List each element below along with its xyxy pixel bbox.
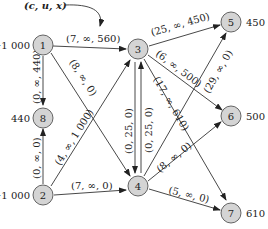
node-1-id: 1: [40, 40, 46, 51]
node-6-supply: 500: [246, 111, 265, 122]
edge-label-1-4: (8, ∞, 0): [67, 57, 99, 98]
edge-label-4-5: (29, ∞, 0): [201, 48, 235, 95]
node-8-supply: 440: [11, 113, 30, 124]
node-7: 7 610: [221, 203, 265, 223]
legend-pointer-arrow: [65, 5, 101, 26]
node-5: 5 450: [221, 12, 265, 32]
edge-label-4-3: (0, 25, 0): [143, 107, 154, 153]
node-5-id: 5: [228, 17, 234, 28]
edge-label-4-7: (5, ∞, 0): [168, 184, 211, 205]
node-8: 8 440: [11, 108, 53, 128]
node-2-id: 2: [40, 190, 46, 201]
edge-label-1-3: (7, ∞, 560): [66, 33, 120, 44]
edge-label-1-8: (0, ∞, 440): [31, 50, 42, 104]
edge-1-3: [53, 46, 126, 49]
node-1: 1 −1 000: [0, 35, 53, 55]
edge-label-3-5: (25, ∞, 450): [150, 11, 211, 38]
node-3-id: 3: [135, 44, 141, 55]
node-2-supply: −1 000: [0, 190, 30, 201]
node-3: 3: [128, 39, 148, 59]
node-6: 6 500: [221, 106, 265, 126]
node-8-id: 8: [40, 113, 46, 124]
node-1-supply: −1 000: [0, 40, 30, 51]
node-4: 4: [128, 176, 148, 196]
node-4-id: 4: [135, 181, 141, 192]
edge-label-2-8: (0, ∞, 0): [31, 137, 42, 179]
node-5-supply: 450: [246, 17, 265, 28]
edge-label-2-3: (4, ∞, 1 000): [52, 107, 95, 167]
node-6-id: 6: [228, 111, 234, 122]
node-2: 2 −1 000: [0, 185, 53, 205]
edge-label-2-4: (7, ∞, 0): [71, 180, 113, 191]
node-7-id: 7: [228, 208, 234, 219]
edge-label-3-4: (0, 25, 0): [123, 108, 134, 154]
edge-label-4-6: (8, ∞, 0): [154, 140, 193, 175]
legend-label: (c, u, x): [24, 0, 67, 12]
network-flow-diagram: (c, u, x) (7, ∞, 560) (0, ∞, 440) (8, ∞,…: [0, 0, 268, 229]
node-7-supply: 610: [246, 208, 265, 219]
